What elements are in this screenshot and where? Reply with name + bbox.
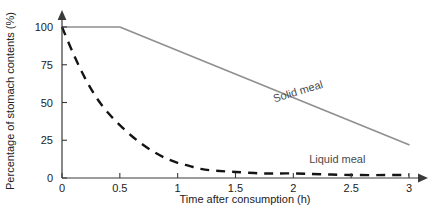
y-tick-label: 0 [47, 172, 53, 184]
x-axis-arrowhead [418, 173, 428, 182]
x-tick-label: 3 [406, 182, 412, 194]
x-tick-label: 0.5 [112, 182, 127, 194]
series-line-solid-meal [62, 27, 409, 145]
y-axis-title: Percentage of stomach contents (%) [4, 12, 16, 190]
x-axis: 00.511.522.53 [59, 173, 428, 194]
series-label-liquid-meal: Liquid meal [309, 153, 365, 165]
y-tick-label: 75 [41, 59, 53, 71]
x-axis-title: Time after consumption (h) [179, 193, 310, 205]
x-axis-ticks [62, 173, 409, 178]
y-axis-tick-labels: 0255075100 [35, 21, 53, 184]
y-axis-arrowhead [58, 10, 67, 20]
y-axis-ticks [62, 27, 67, 178]
y-tick-label: 100 [35, 21, 53, 33]
y-tick-label: 50 [41, 97, 53, 109]
chart-figure: 0255075100 00.511.522.53 Time after cons… [0, 0, 437, 221]
x-tick-label: 0 [59, 182, 65, 194]
gastric-emptying-line-chart: 0255075100 00.511.522.53 Time after cons… [0, 0, 437, 221]
y-axis: 0255075100 [35, 10, 67, 184]
x-tick-label: 2.5 [344, 182, 359, 194]
y-tick-label: 25 [41, 134, 53, 146]
